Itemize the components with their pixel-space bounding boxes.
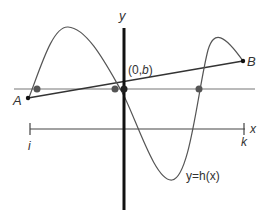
function-diagram: y x A B i k y=h(x) (0,b) — [0, 0, 266, 218]
intercept-open: (0, — [128, 63, 142, 77]
point-B — [241, 59, 245, 63]
y-axis-label: y — [118, 8, 127, 23]
x-axis-label: x — [249, 122, 257, 136]
intercept-label: (0,b) — [128, 63, 153, 77]
point-B-label: B — [247, 54, 256, 69]
dot-right-intersection — [196, 86, 203, 93]
intercept-close: ) — [149, 63, 153, 77]
tick-k-label: k — [241, 135, 248, 149]
tick-i-label: i — [28, 139, 31, 153]
dot-secant-intersection — [112, 86, 119, 93]
point-A-label: A — [12, 93, 22, 108]
curve-h — [28, 27, 243, 180]
point-A — [26, 96, 30, 100]
dot-intercept-0b — [121, 86, 128, 93]
curve-label: y=h(x) — [186, 169, 220, 183]
dot-left-intersection — [34, 86, 41, 93]
